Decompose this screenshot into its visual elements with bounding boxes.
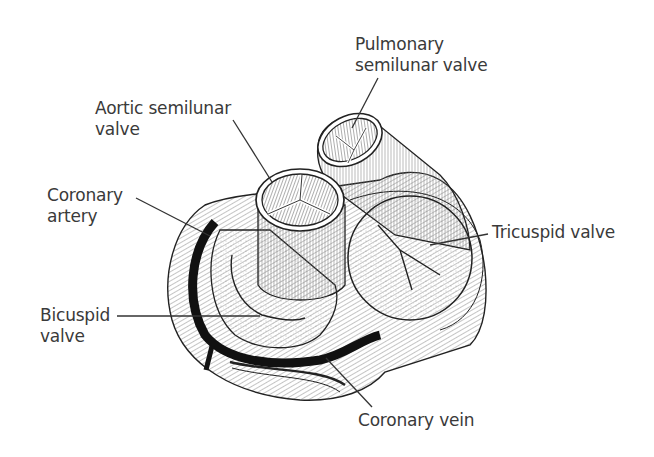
- heart-valves-diagram: Pulmonary semilunar valve Aortic semilun…: [0, 0, 654, 457]
- label-aortic-line2: valve: [95, 119, 231, 140]
- label-tricuspid-line1: Tricuspid valve: [492, 222, 615, 243]
- label-coronary-vein-line1: Coronary vein: [358, 410, 474, 431]
- label-coronary-artery-line1: Coronary: [47, 185, 123, 206]
- label-aortic-semilunar-valve: Aortic semilunar valve: [95, 98, 231, 140]
- label-aortic-line1: Aortic semilunar: [95, 98, 231, 119]
- leader-aortic: [233, 120, 272, 182]
- label-coronary-vein: Coronary vein: [358, 410, 474, 431]
- label-bicuspid-line1: Bicuspid: [40, 305, 110, 326]
- label-pulmonary-line1: Pulmonary: [355, 34, 487, 55]
- label-coronary-artery-line2: artery: [47, 206, 123, 227]
- label-bicuspid-line2: valve: [40, 326, 110, 347]
- label-coronary-artery: Coronary artery: [47, 185, 123, 227]
- label-pulmonary-line2: semilunar valve: [355, 55, 487, 76]
- aortic-trunk: [256, 169, 345, 300]
- label-pulmonary-semilunar-valve: Pulmonary semilunar valve: [355, 34, 487, 76]
- label-bicuspid-valve: Bicuspid valve: [40, 305, 110, 347]
- label-tricuspid-valve: Tricuspid valve: [492, 222, 615, 243]
